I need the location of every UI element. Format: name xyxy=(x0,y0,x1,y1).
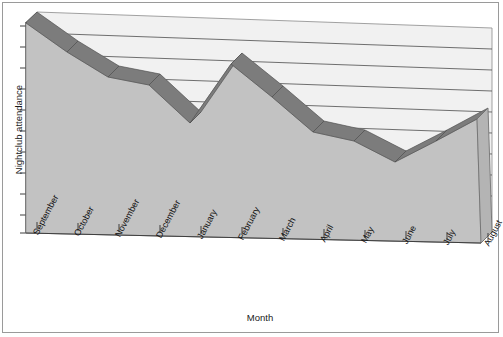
y-axis-title: Nightclub attendance xyxy=(13,60,24,200)
chart-plot-svg xyxy=(0,0,503,337)
chart-container: Nightclub attendance Month September Oct… xyxy=(0,0,503,337)
x-axis-title: Month xyxy=(200,312,320,323)
